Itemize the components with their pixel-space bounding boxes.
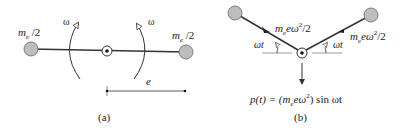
angle-right-label: ωt xyxy=(333,40,343,50)
figure-a xyxy=(24,23,193,96)
left-mass-label: me /2 xyxy=(18,27,40,41)
rotation-arrow-left-icon xyxy=(69,23,80,79)
pivot-center xyxy=(105,49,109,53)
angle-left-label: ωt xyxy=(254,40,264,50)
left-force-label: meeω2/2 xyxy=(275,22,311,37)
caption-b: (b) xyxy=(294,112,307,123)
right-mass-label: me /2 xyxy=(172,30,194,44)
omega-right-label: ω xyxy=(148,17,155,27)
omega-left-label: ω xyxy=(63,17,70,27)
force-formula: p(t) = (meeω2) sin ωt xyxy=(250,93,342,108)
right-mass xyxy=(179,45,193,59)
figure-b xyxy=(228,6,378,84)
dimension-e-label: e xyxy=(146,76,151,87)
right-mass xyxy=(364,8,378,22)
angle-arrow-left-icon xyxy=(276,43,278,53)
right-force-label: meeω2/2 xyxy=(350,30,386,45)
left-mass xyxy=(228,6,242,20)
caption-a: (a) xyxy=(98,112,110,123)
angle-arrow-right-icon xyxy=(325,43,327,53)
left-mass xyxy=(24,42,38,56)
diagram-canvas xyxy=(0,0,410,133)
